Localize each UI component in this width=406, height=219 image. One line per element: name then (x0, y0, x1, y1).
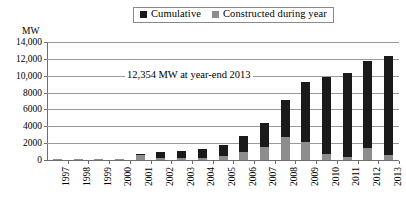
x-axis-tick-mark (254, 161, 255, 164)
x-axis-tick-label: 2012 (372, 167, 382, 186)
bar-slot (239, 42, 248, 160)
square-marker-icon (212, 11, 219, 18)
x-axis-tick-mark (88, 161, 89, 164)
bar-slot (177, 42, 186, 160)
x-axis-tick-mark (151, 161, 152, 164)
bar-constructed-during-year (363, 148, 372, 160)
x-axis-tick-label: 2010 (331, 167, 341, 186)
square-marker-icon (140, 11, 147, 18)
x-axis-tick-mark (68, 161, 69, 164)
x-axis-tick-label: 1999 (103, 167, 113, 186)
bar-cumulative (384, 56, 393, 160)
bar-slot (115, 42, 124, 160)
bar-slot (219, 42, 228, 160)
y-axis-tick-label: 14,000 (0, 37, 46, 47)
bar-constructed-during-year (301, 142, 310, 160)
y-axis-tick-label: 6000 (0, 104, 46, 114)
bar-constructed-during-year (239, 152, 248, 160)
x-axis-tick-mark (358, 161, 359, 164)
x-axis-tick-mark (337, 161, 338, 164)
x-axis-tick-mark (233, 161, 234, 164)
bar-cumulative (363, 61, 372, 160)
x-axis-tick-mark (316, 161, 317, 164)
chart-legend: Cumulative Constructed during year (133, 7, 334, 23)
bar-slot (198, 42, 207, 160)
bar-cumulative (322, 77, 331, 160)
bar-slot (322, 42, 331, 160)
x-axis-tick-label: 2007 (268, 167, 278, 186)
x-axis-tick-mark (109, 161, 110, 164)
legend-entry-cumulative: Cumulative (140, 9, 201, 20)
x-axis-tick-label: 2011 (351, 167, 361, 186)
x-axis-tick-label: 2009 (310, 167, 320, 186)
x-axis-tick-label: 2003 (186, 167, 196, 186)
x-axis-tick-label: 2004 (206, 167, 216, 186)
legend-entry-constructed-during-year: Constructed during year (212, 9, 327, 20)
x-axis-tick-label: 1997 (61, 167, 71, 186)
bar-slot (281, 42, 290, 160)
x-axis-tick-label: 1998 (82, 167, 92, 186)
x-axis-tick-mark (213, 161, 214, 164)
x-axis-tick-mark (130, 161, 131, 164)
cumulative-capacity-bar-chart: Cumulative Constructed during year MW 14… (0, 0, 406, 219)
y-axis-tick-label: 12,000 (0, 54, 46, 64)
x-axis-tick-mark (378, 161, 379, 164)
y-axis-tick-label: 4000 (0, 121, 46, 131)
y-axis-tick-label: 0 (0, 155, 46, 165)
y-axis-unit-label: MW (22, 26, 39, 36)
x-axis-tick-label: 2000 (123, 167, 133, 186)
legend-label-cumulative: Cumulative (151, 9, 201, 20)
bar-slot (136, 42, 145, 160)
bar-slot (156, 42, 165, 160)
bar-slot (260, 42, 269, 160)
bar-slot (74, 42, 83, 160)
legend-label-constructed-during-year: Constructed during year (223, 9, 327, 20)
y-axis-tick-label: 8000 (0, 88, 46, 98)
bar-group (47, 42, 399, 160)
x-axis-tick-label: 2008 (289, 167, 299, 186)
bar-slot (363, 42, 372, 160)
x-axis-tick-mark (192, 161, 193, 164)
bar-slot (384, 42, 393, 160)
x-axis-tick-label: 2006 (248, 167, 258, 186)
x-axis-tick-mark (171, 161, 172, 164)
bar-constructed-during-year (281, 137, 290, 160)
y-axis-tick-label: 10,000 (0, 71, 46, 81)
x-axis-tick-label: 2002 (165, 167, 175, 186)
x-axis-tick-mark (399, 161, 400, 164)
x-axis-tick-label: 2005 (227, 167, 237, 186)
bar-slot (301, 42, 310, 160)
x-axis-tick-labels: 1997199819992000200120022003200420052006… (47, 161, 399, 219)
bar-cumulative (343, 73, 352, 160)
bar-slot (343, 42, 352, 160)
x-axis-tick-label: 2001 (144, 167, 154, 186)
bar-constructed-during-year (260, 147, 269, 160)
y-axis-tick-label: 2000 (0, 138, 46, 148)
x-axis-tick-mark (295, 161, 296, 164)
bar-slot (94, 42, 103, 160)
x-axis-tick-mark (275, 161, 276, 164)
x-axis-tick-label: 2013 (393, 167, 403, 186)
bar-slot (53, 42, 62, 160)
